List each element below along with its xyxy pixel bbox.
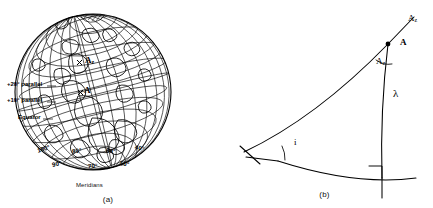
- label-equator: Equator: [18, 114, 41, 120]
- globe-graticule-drawing: [0, 0, 216, 208]
- azimuth-line-label-sub: z: [415, 17, 418, 23]
- meridian-label-80: 80°: [72, 147, 82, 155]
- panel-b-spherical-triangle: Az A Az λ i (b): [216, 0, 433, 208]
- panel-b-caption: (b): [216, 190, 433, 199]
- figure-container: +20° parallel +10° parallel Equator Az A…: [0, 0, 433, 208]
- panel-a-globe: +20° parallel +10° parallel Equator Az A…: [0, 0, 216, 208]
- lambda-label-text: λ: [393, 87, 398, 99]
- equator-arc: [278, 161, 416, 180]
- azimuth-line-label: Az: [408, 14, 417, 23]
- globe-point-a-label: A: [84, 86, 91, 95]
- label-parallel-20: +20° parallel: [7, 81, 42, 87]
- inclination-angle-arc: [282, 146, 285, 160]
- inclination-angle-label-text: i: [294, 137, 297, 147]
- lambda-label: λ: [393, 88, 398, 99]
- azimuth-angle-label-sub: z: [383, 60, 386, 66]
- inclination-angle-label: i: [294, 138, 297, 147]
- label-parallel-10: +10° parallel: [7, 97, 42, 103]
- globe-point-az-sub: z: [92, 59, 95, 65]
- point-a-label: A: [400, 38, 407, 47]
- orbit-great-circle-arc: [244, 44, 388, 152]
- point-a-marker: [386, 42, 391, 47]
- equator-left-extension: [246, 157, 278, 161]
- spherical-triangle-drawing: [216, 0, 433, 208]
- meridian-label-50: 50°: [120, 159, 130, 167]
- right-angle-marker: [369, 166, 382, 178]
- panel-a-caption: (a): [0, 195, 216, 204]
- meridian-label-70: 70°: [88, 162, 98, 169]
- meridians-axis-caption: Meridians: [76, 182, 103, 188]
- globe-point-a-text: A: [84, 85, 91, 95]
- azimuth-angle-label: Az: [376, 57, 385, 66]
- meridian-label-60: 60°: [106, 147, 116, 155]
- point-a-label-text: A: [400, 37, 407, 47]
- globe-point-az-label: Az: [85, 56, 94, 65]
